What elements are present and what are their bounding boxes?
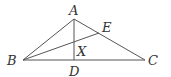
label-x: X — [76, 44, 87, 59]
label-c: C — [148, 53, 158, 68]
label-a: A — [68, 3, 78, 18]
label-b: B — [6, 53, 17, 68]
segment-be — [23, 33, 99, 60]
label-d: D — [68, 64, 80, 77]
label-e: E — [101, 20, 112, 35]
triangle-diagram: A B C D E X — [0, 0, 171, 77]
segment-ab — [23, 19, 74, 60]
